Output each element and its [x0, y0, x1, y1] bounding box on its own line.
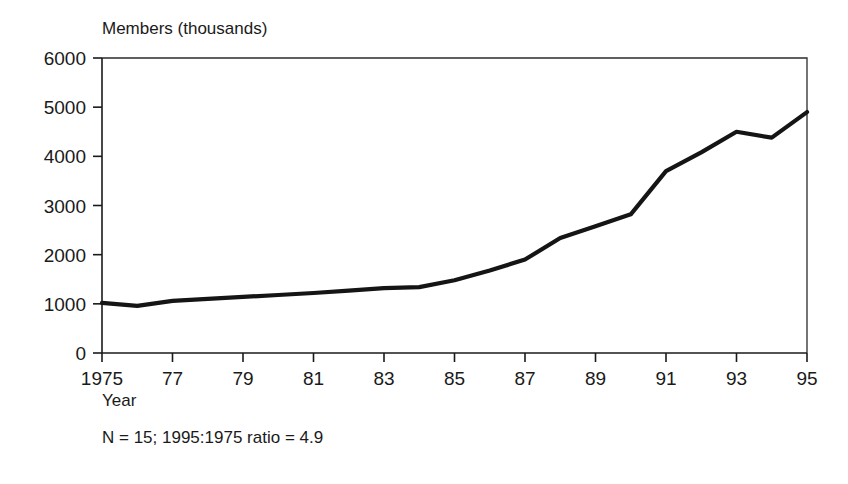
x-axis-tick-marks [102, 353, 807, 362]
y-axis-tick-marks [93, 58, 102, 353]
y-tick-label: 5000 [44, 97, 86, 118]
x-tick-label: 81 [303, 368, 324, 389]
x-tick-label: 1975 [81, 368, 123, 389]
x-tick-label: 89 [585, 368, 606, 389]
x-tick-label: 77 [162, 368, 183, 389]
y-tick-label: 3000 [44, 196, 86, 217]
y-tick-label: 4000 [44, 146, 86, 167]
x-axis-tick-labels: 197577798183858789919395 [81, 368, 818, 389]
x-tick-label: 79 [232, 368, 253, 389]
x-tick-label: 93 [726, 368, 747, 389]
chart-footnote: N = 15; 1995:1975 ratio = 4.9 [102, 428, 323, 447]
x-tick-label: 95 [796, 368, 817, 389]
y-tick-label: 1000 [44, 294, 86, 315]
y-tick-label: 6000 [44, 48, 86, 69]
y-tick-label: 2000 [44, 245, 86, 266]
y-tick-label: 0 [75, 343, 86, 364]
y-axis-tick-labels: 0100020003000400050006000 [44, 48, 86, 364]
y-axis-title: Members (thousands) [102, 19, 267, 38]
line-chart: 0100020003000400050006000 19757779818385… [0, 0, 848, 484]
x-tick-label: 85 [444, 368, 465, 389]
x-axis-title: Year [102, 391, 137, 410]
data-series-members [102, 112, 807, 306]
plot-frame [102, 58, 807, 353]
x-tick-label: 87 [514, 368, 535, 389]
x-tick-label: 83 [373, 368, 394, 389]
chart-figure: 0100020003000400050006000 19757779818385… [0, 0, 848, 484]
x-tick-label: 91 [655, 368, 676, 389]
